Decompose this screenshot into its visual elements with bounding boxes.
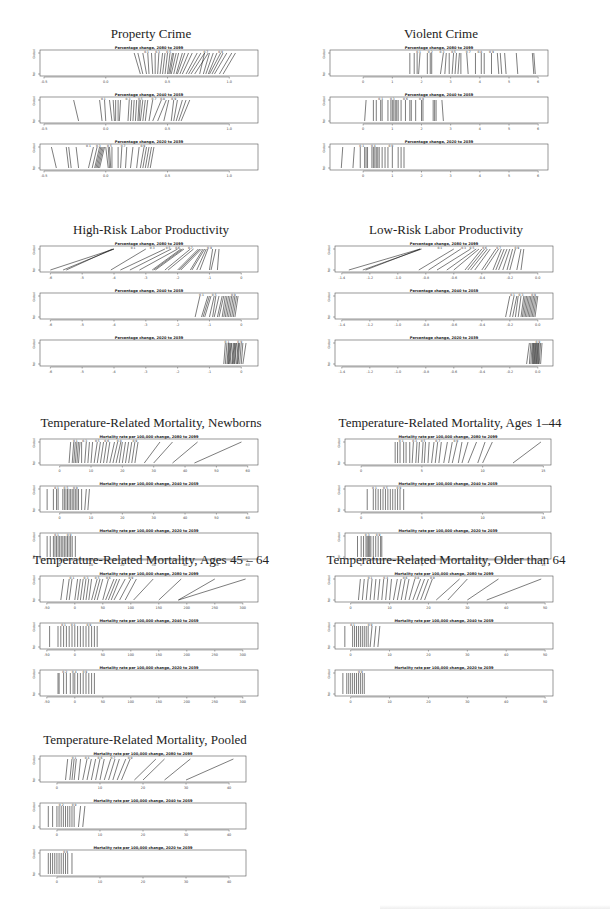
quantile-label: 0.5	[64, 486, 69, 490]
x-tick-label: -5	[80, 276, 83, 280]
quantile-label: 0.1	[350, 623, 355, 627]
y-label-global: Global	[32, 339, 36, 349]
quantile-label: 0.7	[496, 246, 501, 250]
panel-subtitle: Percentage change, 2020 to 2039	[405, 140, 474, 144]
plot-frame	[40, 576, 258, 602]
x-axis: -0.50.00.51.0	[41, 171, 232, 178]
quantile-label: 0.3	[82, 439, 87, 443]
plot-frame	[40, 850, 246, 876]
quantile-label: 0.5	[212, 293, 217, 297]
x-tick-label: -1.2	[366, 370, 373, 374]
quantile-label: 0.8	[117, 439, 122, 443]
x-tick-label: 0	[56, 786, 58, 790]
plot-frame	[40, 670, 258, 696]
x-tick-label: 30	[465, 606, 469, 610]
x-tick-label: 200	[184, 653, 190, 657]
x-tick-label: 3	[450, 174, 452, 178]
panel-subtitle: Mortality rate per 100,000 change, 2040 …	[100, 619, 199, 623]
quantile-label: 0.6	[104, 439, 109, 443]
quantile-label: 0.9	[430, 576, 435, 580]
plot-frame	[335, 340, 553, 366]
quantile-label: 0.5	[107, 144, 112, 148]
x-axis: 010203040	[56, 830, 231, 837]
x-axis: -6-5-4-3-2-10	[49, 320, 243, 327]
x-axis: -50050100150200250300	[44, 697, 246, 704]
quantile-label: 0.5	[166, 50, 171, 54]
x-tick-label: 40	[227, 833, 231, 837]
quantile-label: 0.9	[82, 670, 87, 674]
x-tick-label: 0	[350, 653, 352, 657]
x-tick-label: 100	[128, 700, 134, 704]
quantile-label: 0.3	[365, 533, 370, 537]
x-tick-label: 100	[128, 653, 134, 657]
y-label-global: Global	[327, 245, 331, 255]
x-axis: -1.4-1.2-1.0-0.8-0.6-0.4-0.20.0	[338, 320, 540, 327]
panel-subtitle: Mortality rate per 100,000 change, 2080 …	[94, 752, 193, 756]
panel-late-century: Percentage change, 2080 to 2099GlobalRel…	[323, 240, 565, 284]
x-tick-label: 0	[350, 606, 352, 610]
x-axis: 0123456	[362, 77, 539, 84]
y-label-global: Global	[327, 292, 331, 302]
x-tick-label: 30	[152, 516, 156, 520]
y-label-global: Global	[32, 622, 36, 632]
x-tick-label: 6	[537, 127, 539, 131]
plot-frame	[330, 144, 548, 170]
x-tick-label: 10	[89, 516, 93, 520]
x-tick-label: -0.2	[506, 323, 513, 327]
quantile-label: 0.9	[86, 623, 91, 627]
x-tick-label: 0.0	[535, 276, 540, 280]
quantile-label: 0.7	[110, 756, 115, 760]
quantile-label: 0.1	[131, 246, 136, 250]
panel-mid-century: Mortality rate per 100,000 change, 2040 …	[28, 480, 270, 524]
quantile-label: 0.6	[175, 246, 180, 250]
y-label-global: Global	[32, 575, 36, 585]
quantile-label: 0.5	[470, 246, 475, 250]
x-tick-label: 30	[152, 469, 156, 473]
panel-subtitle: Percentage change, 2020 to 2039	[115, 336, 184, 340]
panel-late-century: Mortality rate per 100,000 change, 2080 …	[28, 433, 270, 477]
x-tick-label: 10	[480, 469, 484, 473]
x-tick-label: -0.6	[450, 323, 457, 327]
y-label-global: Global	[32, 143, 36, 153]
x-tick-label: 6	[537, 174, 539, 178]
x-tick-label: 200	[184, 700, 190, 704]
panel-near-term: Percentage change, 2020 to 2039GlobalRel…	[318, 138, 560, 182]
x-tick-label: 3	[450, 80, 452, 84]
plot-frame	[40, 97, 258, 123]
quantile-label: 0.1	[199, 293, 204, 297]
quantile-label: 0.5	[421, 439, 426, 443]
figure-title: Temperature-Related Mortality, Newborns	[20, 415, 282, 431]
panel-late-century: Percentage change, 2080 to 2099GlobalRel…	[318, 44, 560, 88]
y-label-rel: Rel	[327, 315, 331, 320]
panel-late-century: Mortality rate per 100,000 change, 2080 …	[28, 750, 258, 794]
y-label-rel: Rel	[327, 268, 331, 273]
quantile-label: 0.9	[207, 246, 212, 250]
x-tick-label: 50	[543, 606, 547, 610]
plot-frame	[335, 670, 553, 696]
x-axis: 010203040	[56, 783, 231, 790]
y-label-rel: Rel	[32, 778, 36, 783]
panel-near-term: Mortality rate per 100,000 change, 2020 …	[323, 664, 565, 708]
quantile-label: 0.9	[531, 293, 536, 297]
y-label-global: Global	[322, 96, 326, 106]
x-tick-label: 5	[508, 80, 510, 84]
y-label-rel: Rel	[327, 692, 331, 697]
panel-subtitle: Percentage change, 2040 to 2059	[405, 93, 474, 97]
quantile-label: 0.1	[225, 340, 230, 344]
plot-frame	[40, 246, 258, 272]
x-tick-label: 50	[214, 516, 218, 520]
y-label-global: Global	[32, 669, 36, 679]
x-axis: 051015	[360, 513, 545, 520]
y-label-rel: Rel	[32, 72, 36, 77]
x-tick-label: 20	[120, 469, 124, 473]
x-tick-label: -0.4	[478, 323, 485, 327]
quantile-label: 0.3	[461, 246, 466, 250]
y-label-global: Global	[32, 755, 36, 765]
x-tick-label: 1	[391, 127, 393, 131]
y-label-global: Global	[327, 339, 331, 349]
x-tick-label: 0	[360, 516, 362, 520]
x-axis: -0.50.00.51.0	[41, 77, 232, 84]
quantile-label: 0.1	[86, 144, 91, 148]
panel-subtitle: Mortality rate per 100,000 change, 2040 …	[100, 482, 199, 486]
x-tick-label: 0	[74, 653, 76, 657]
